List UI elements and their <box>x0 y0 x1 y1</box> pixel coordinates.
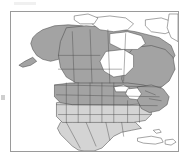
figure-region: North America <box>0 0 1 1</box>
figure-title <box>0 0 1 1</box>
map-range-shaded <box>19 25 175 113</box>
map-frame <box>10 11 179 152</box>
region-cuba <box>137 136 163 144</box>
region-aleutians <box>19 57 37 67</box>
north-america-range-map <box>11 12 178 151</box>
region-hispaniola <box>165 139 176 145</box>
region-greenland-edge <box>167 14 178 42</box>
region-arctic-islands-d <box>74 14 98 24</box>
figure-panel: North America <box>0 0 189 162</box>
region-bahamas <box>153 129 161 133</box>
map-land-unshaded <box>56 101 151 151</box>
figure-caption <box>0 0 1 1</box>
scan-artifact-left-edge <box>1 95 5 100</box>
region-northeastern-us <box>137 85 169 113</box>
scan-artifact-top <box>14 2 36 5</box>
